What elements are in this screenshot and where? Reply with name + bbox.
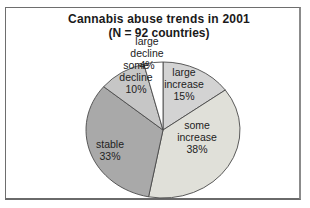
chart-page: Cannabis abuse trends in 2001 (N = 92 co…: [0, 0, 310, 208]
pie-svg: [0, 0, 310, 208]
